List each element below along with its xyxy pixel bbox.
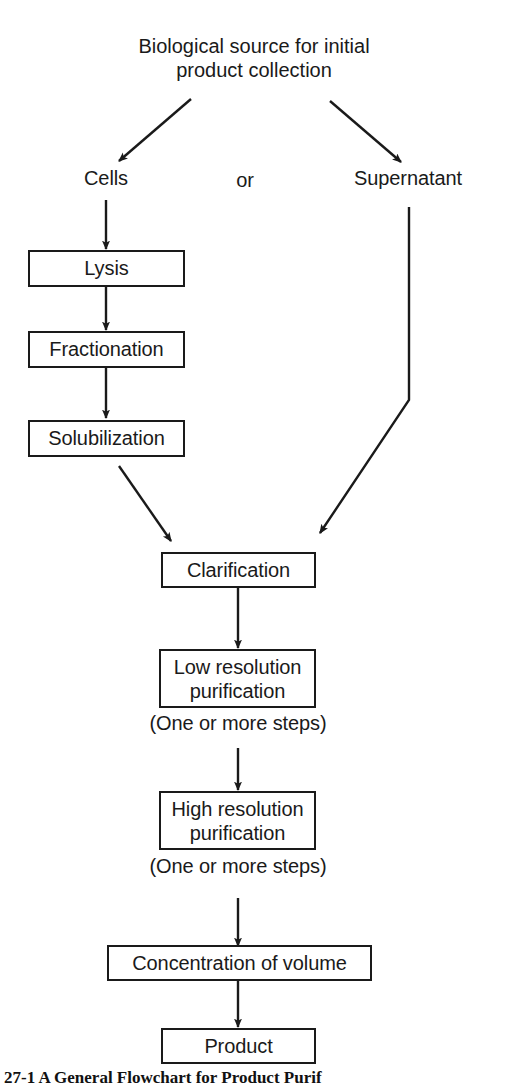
node-high-resolution-purification[interactable]: High resolution purification [159, 791, 316, 850]
arrow-supernatant-to-clarification [320, 207, 409, 533]
figure-caption: 27-1 A General Flowchart for Product Pur… [0, 1068, 509, 1090]
node-fractionation[interactable]: Fractionation [28, 331, 185, 368]
arrow-source-to-cells [119, 99, 191, 161]
arrow-solubilization-to-clarification [119, 466, 171, 541]
node-low-resolution-line-2: purification [190, 679, 286, 703]
node-low-resolution-purification[interactable]: Low resolution purification [159, 649, 316, 708]
page-title-line-1: Biological source for initial [104, 34, 404, 58]
node-low-resolution-line-1: Low resolution [174, 655, 302, 679]
node-concentration-of-volume[interactable]: Concentration of volume [107, 945, 372, 981]
steps-note-high-resolution: (One or more steps) [131, 855, 345, 878]
page-title-line-2: product collection [104, 58, 404, 82]
flowchart-connectors [0, 0, 509, 1090]
branch-label-cells: Cells [56, 167, 156, 190]
branch-label-supernatant: Supernatant [330, 167, 486, 190]
page-title: Biological source for initial product co… [104, 34, 404, 83]
flowchart-figure: Biological source for initial product co… [0, 0, 509, 1090]
node-product[interactable]: Product [161, 1028, 316, 1064]
node-clarification[interactable]: Clarification [161, 552, 316, 588]
node-solubilization[interactable]: Solubilization [28, 420, 185, 457]
node-lysis[interactable]: Lysis [28, 250, 185, 287]
node-high-resolution-line-2: purification [190, 821, 286, 845]
node-high-resolution-line-1: High resolution [172, 797, 304, 821]
arrow-source-to-supernatant [330, 101, 401, 162]
branch-label-or: or [215, 169, 275, 192]
steps-note-low-resolution: (One or more steps) [131, 712, 345, 735]
